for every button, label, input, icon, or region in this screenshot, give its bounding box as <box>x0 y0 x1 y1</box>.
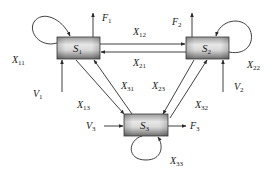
node-s1: S1 <box>57 37 100 59</box>
label-x13: X13 <box>76 99 91 112</box>
label-x12: X12 <box>132 26 147 39</box>
label-x33: X33 <box>169 155 184 168</box>
node-s3: S3 <box>124 114 168 136</box>
node-s2: S2 <box>186 37 229 59</box>
label-x21: X21 <box>132 57 147 70</box>
label-f2: F2 <box>171 16 182 29</box>
edge-x33-loop <box>131 136 161 160</box>
flow-diagram: S1 S2 S3 X11 X22 X33 X12 X21 X13 X31 X23… <box>0 0 279 171</box>
label-f3: F3 <box>189 120 200 133</box>
label-x23: X23 <box>151 80 166 93</box>
label-v2: V2 <box>234 81 244 94</box>
label-x31: X31 <box>120 80 135 93</box>
label-f1: F1 <box>101 12 112 25</box>
label-x11: X11 <box>11 54 25 67</box>
label-x22: X22 <box>246 59 261 72</box>
label-v3: V3 <box>86 120 96 133</box>
label-x32: X32 <box>194 99 209 112</box>
label-v1: V1 <box>33 88 43 101</box>
